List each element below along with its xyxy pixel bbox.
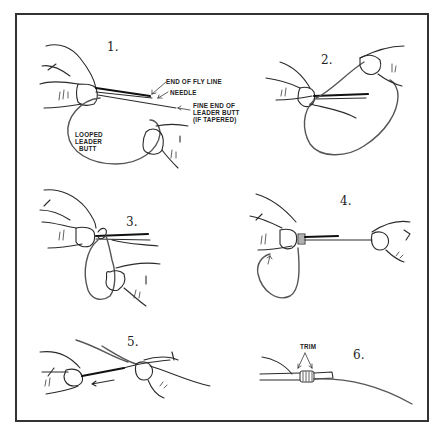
label-fine-end-1: FINE END OF xyxy=(193,102,235,109)
label-trim: TRIM xyxy=(300,343,316,350)
right-hand-icon xyxy=(371,221,410,262)
right-hand-icon xyxy=(360,46,404,86)
step-number-2: 2. xyxy=(321,53,332,67)
label-looped-3: BUTT xyxy=(79,145,97,152)
step-number-4: 4. xyxy=(340,194,351,208)
needle xyxy=(98,95,176,108)
right-hand-icon xyxy=(143,125,188,169)
right-hand-icon xyxy=(135,352,178,398)
label-fine-end-2: LEADER BUTT xyxy=(193,109,240,116)
panel-2: 2. xyxy=(266,46,404,155)
label-looped-2: LEADER xyxy=(75,138,102,145)
label-needle: NEEDLE xyxy=(170,89,197,96)
label-fine-end-3: (IF TAPERED) xyxy=(193,116,237,124)
step-number-6: 6. xyxy=(353,348,364,362)
nail-knot-illustration: 1. END OF FLY LINE NEED xyxy=(0,0,444,436)
left-hand-icon xyxy=(250,194,297,250)
left-hand-icon xyxy=(40,45,97,108)
panel-6: 6. TRIM xyxy=(260,343,412,404)
panel-1: 1. END OF FLY LINE NEED xyxy=(40,40,240,168)
left-hand-icon xyxy=(266,62,315,107)
arrow-icon xyxy=(267,256,272,264)
pull-arrow-icon xyxy=(92,380,114,386)
panel-4: 4. xyxy=(250,194,410,298)
step-number-3: 3. xyxy=(126,215,137,229)
left-hand-icon xyxy=(40,190,96,248)
left-hand-icon xyxy=(40,352,83,394)
wrap-coil xyxy=(299,236,304,242)
step-number-5: 5. xyxy=(127,335,138,349)
panel-5: 5. xyxy=(40,335,210,398)
panel-3: 3. xyxy=(40,190,160,306)
needle xyxy=(82,368,124,376)
wrap-coil xyxy=(98,228,106,238)
label-looped-1: LOOPED xyxy=(75,131,103,138)
label-end-of-fly-line: END OF FLY LINE xyxy=(166,78,222,85)
step-number-1: 1. xyxy=(107,40,118,54)
